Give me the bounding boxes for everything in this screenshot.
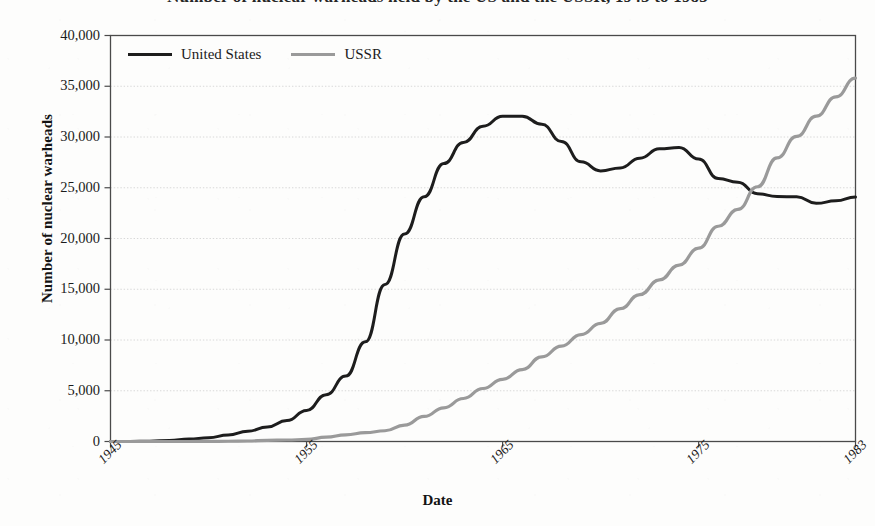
line-swatch-ussr-icon [291,53,335,56]
plot-border [111,36,856,442]
y-tick-label: 10,000 [26,331,100,348]
y-tick-label: 40,000 [26,27,100,44]
y-tick-label: 5,000 [26,382,100,399]
y-tick-label: 30,000 [26,128,100,145]
plot-canvas [0,0,875,526]
y-tick-label: 0 [26,433,100,450]
legend-label-united-states: United States [181,46,261,63]
legend-item-ussr: USSR [291,46,382,63]
data-series-layer [111,78,856,441]
legend-label-ussr: USSR [344,46,382,63]
y-tick-label: 15,000 [26,280,100,297]
chart-legend: United States USSR [128,46,382,63]
line-swatch-us-icon [128,53,172,56]
y-tick-label: 25,000 [26,179,100,196]
chart-figure: Number of nuclear warheads held by the U… [0,0,875,526]
y-tick-label: 35,000 [26,77,100,94]
legend-item-united-states: United States [128,46,261,63]
axis-ticks [105,36,856,448]
y-tick-label: 20,000 [26,230,100,247]
gridlines [111,36,856,391]
